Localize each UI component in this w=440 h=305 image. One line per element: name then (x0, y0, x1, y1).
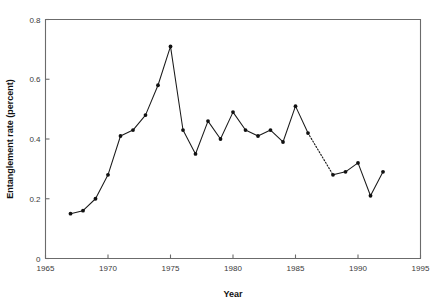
x-tick-label: 1995 (412, 264, 430, 273)
data-point-marker (144, 113, 148, 117)
chart-background (0, 0, 440, 305)
data-point-marker (106, 173, 110, 177)
x-tick-label: 1980 (224, 264, 242, 273)
data-point-marker (69, 212, 73, 216)
x-tick-label: 1985 (287, 264, 305, 273)
data-point-marker (381, 170, 385, 174)
data-point-marker (219, 137, 223, 141)
data-point-marker (94, 197, 98, 201)
data-point-marker (369, 194, 373, 198)
data-point-marker (119, 134, 123, 138)
data-point-marker (156, 83, 160, 87)
x-tick-label: 1965 (37, 264, 55, 273)
data-point-marker (294, 104, 298, 108)
data-point-marker (206, 119, 210, 123)
y-tick-label: 0 (36, 255, 41, 264)
x-tick-label: 1990 (349, 264, 367, 273)
data-point-marker (131, 128, 135, 132)
data-point-marker (331, 173, 335, 177)
data-point-marker (269, 128, 273, 132)
y-tick-label: 0.4 (29, 135, 41, 144)
y-axis-title: Entanglement rate (percent) (5, 79, 15, 199)
chart-container: 1965197019751980198519901995 00.20.40.60… (0, 0, 440, 305)
data-point-marker (169, 44, 173, 48)
y-tick-label: 0.8 (29, 16, 41, 25)
data-point-marker (256, 134, 260, 138)
x-axis-title: Year (223, 289, 243, 299)
entanglement-rate-line-chart: 1965197019751980198519901995 00.20.40.60… (0, 0, 440, 305)
data-point-marker (306, 131, 310, 135)
y-tick-label: 0.6 (29, 75, 41, 84)
x-tick-label: 1975 (162, 264, 180, 273)
data-point-marker (356, 161, 360, 165)
data-point-marker (244, 128, 248, 132)
y-tick-label: 0.2 (29, 195, 41, 204)
data-point-marker (344, 170, 348, 174)
data-point-marker (81, 209, 85, 213)
data-point-marker (181, 128, 185, 132)
x-tick-label: 1970 (99, 264, 117, 273)
data-point-marker (281, 140, 285, 144)
data-point-marker (231, 110, 235, 114)
data-point-marker (194, 152, 198, 156)
